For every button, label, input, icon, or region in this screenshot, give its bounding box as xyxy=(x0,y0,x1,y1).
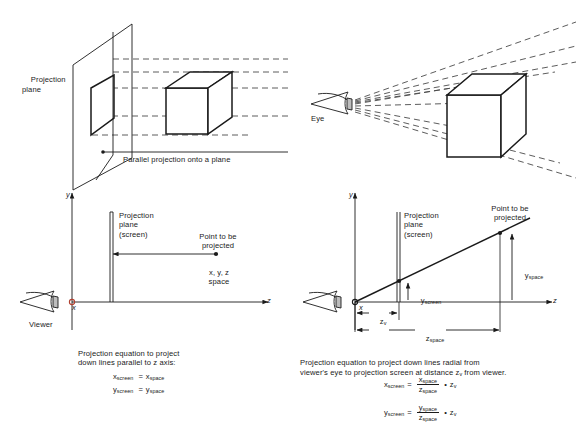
y-space-sub: space xyxy=(529,275,544,281)
z-v-label: zv xyxy=(369,308,389,338)
point-marker xyxy=(214,252,218,256)
y-screen-label: yscreen xyxy=(412,287,441,317)
parallel-projection-caption: Parallel projection onto a plane xyxy=(123,155,230,164)
screen-line xyxy=(110,212,113,302)
z-axis-label-left: z xyxy=(267,296,271,305)
figure-root: Projection plane Parallel projection ont… xyxy=(0,0,576,433)
eq-rel: = xyxy=(138,385,142,394)
parallel-equation-caption: Projection equation to project down line… xyxy=(78,349,179,368)
eq-rhs-sub: space xyxy=(150,375,165,381)
projected-face xyxy=(91,75,114,135)
viewer-label: Viewer xyxy=(29,320,53,329)
eq-lhs-sub: screen xyxy=(117,388,133,394)
z-space-sub: space xyxy=(430,338,445,344)
eq-lhs-sub: screen xyxy=(117,375,133,381)
point-label-left: Point to be projected xyxy=(183,232,253,251)
eq-rel: = xyxy=(138,372,142,381)
eq-rel: = xyxy=(407,380,411,389)
eq-fraction: xspace zspace xyxy=(417,375,439,394)
caption-tail: from viewer. xyxy=(462,368,506,377)
eq-rel: = xyxy=(407,408,411,417)
eq-num-sub: space xyxy=(423,378,438,384)
panel-perspective-projection-3d xyxy=(311,22,576,178)
eq-rhs-sub: space xyxy=(150,388,165,394)
point-label-right: Point to be projected xyxy=(472,204,548,223)
viewer-eye-icon xyxy=(303,291,341,312)
y-axis-label-left: y xyxy=(66,190,70,199)
eq-operator: • xyxy=(444,380,447,389)
eq-den-sub: space xyxy=(423,416,438,422)
eq-factor-sub: v xyxy=(454,383,457,389)
screen-label-right: Projection plane (screen) xyxy=(404,211,439,239)
eq-fraction: yspace zspace xyxy=(417,403,439,422)
screen-point-marker xyxy=(397,279,401,283)
eq-lhs-sub: screen xyxy=(388,383,404,389)
y-axis-label-right: y xyxy=(349,190,353,199)
eye-label: Eye xyxy=(311,114,324,123)
equation-x-screen-perspective: xscreen = xspace zspace • zv xyxy=(384,375,456,394)
screen-label-left: Projection plane (screen) xyxy=(119,211,154,239)
z-axis-label-right: z xyxy=(553,296,557,305)
projection-plane-label: Projection plane xyxy=(22,66,66,104)
equation-y-screen-perspective: yscreen = yspace zspace • zv xyxy=(384,403,456,422)
eq-den-sub: space xyxy=(423,388,438,394)
eye-icon xyxy=(311,92,352,114)
eq-num-sub: space xyxy=(423,406,438,412)
x-axis-label-right: x xyxy=(359,303,363,312)
cube-shape xyxy=(166,72,232,134)
viewer-eye-icon xyxy=(20,291,58,312)
equation-y-screen-parallel: yscreen =yspace xyxy=(113,385,164,394)
eq-lhs-sub: screen xyxy=(388,411,404,417)
eq-operator: • xyxy=(444,408,447,417)
panel-parallel-projection-3d xyxy=(73,24,288,190)
y-space-label: yspace xyxy=(516,262,543,292)
cube-shape xyxy=(447,74,526,157)
space-label-left: x, y, z space xyxy=(189,268,249,287)
y-screen-sub: screen xyxy=(425,300,441,306)
x-axis-label-left: x xyxy=(72,303,76,312)
eq-factor-sub: v xyxy=(454,411,457,417)
radial-projection-line xyxy=(355,218,530,302)
z-v-sub: v xyxy=(384,321,387,327)
equation-x-screen-parallel: xscreen =xspace xyxy=(113,372,164,381)
screen-line xyxy=(397,212,400,302)
